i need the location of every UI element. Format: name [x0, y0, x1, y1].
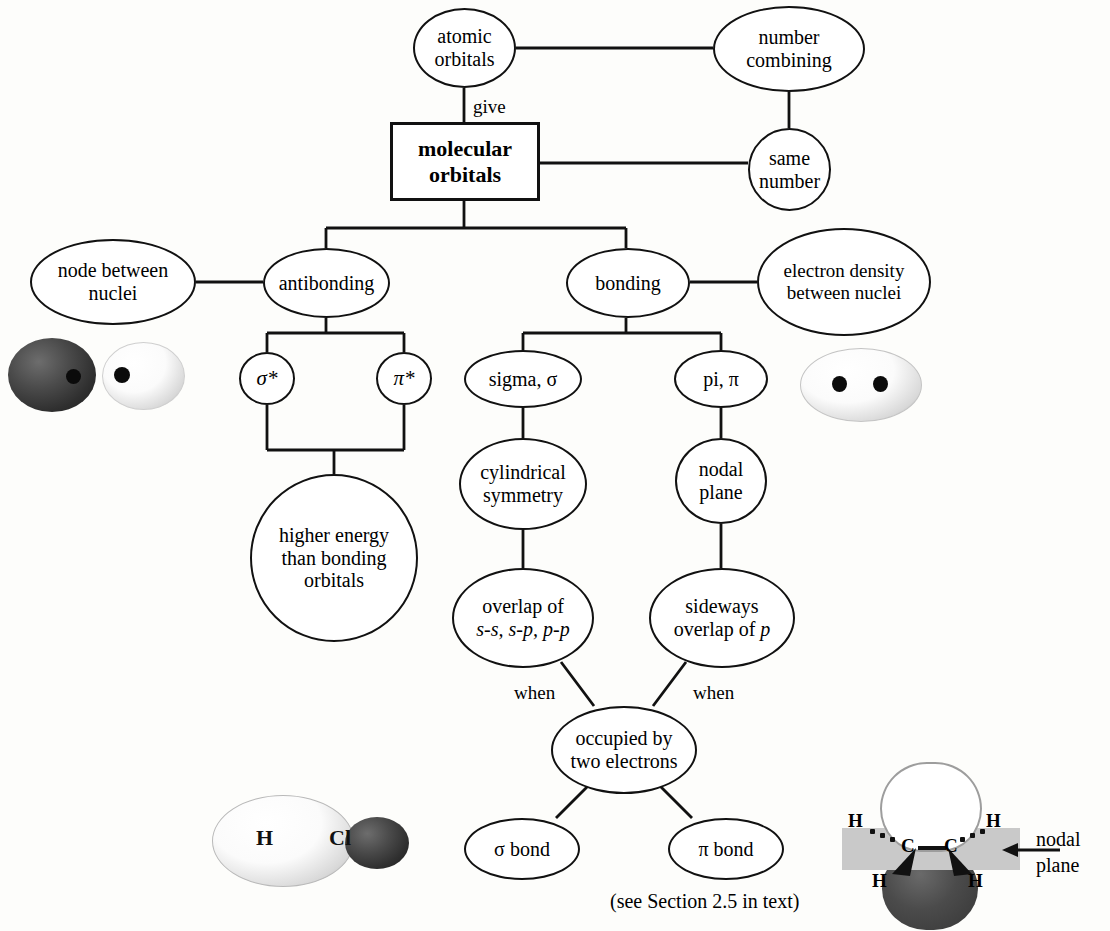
node-pi-bond[interactable]: π bond — [668, 818, 784, 880]
node-sigma-bond[interactable]: σ bond — [464, 818, 580, 880]
node-same-number[interactable]: same number — [748, 128, 831, 211]
nucleus-dot-right — [114, 367, 130, 383]
bonding-orbital-illustration — [800, 348, 920, 420]
node-number-combining[interactable]: number combining — [713, 6, 865, 92]
node-bonding[interactable]: bonding — [566, 248, 690, 318]
node-molecular-orbitals-label: molecular orbitals — [414, 136, 516, 186]
node-pi-star-label: π* — [389, 367, 418, 391]
edge-label-when-left: when — [512, 682, 557, 704]
footnote-section-reference: (see Section 2.5 in text) — [610, 890, 799, 913]
node-same-number-label: same number — [755, 147, 824, 193]
nodal-plane-annotation: nodal plane — [1036, 826, 1080, 878]
node-electron-density[interactable]: electron density between nuclei — [757, 228, 931, 336]
node-atomic-orbitals-label: atomic orbitals — [431, 25, 499, 71]
merged-lobe — [800, 348, 922, 422]
node-electron-density-label: electron density between nuclei — [780, 260, 909, 303]
nucleus-dot-left — [66, 369, 81, 384]
node-atomic-orbitals[interactable]: atomic orbitals — [413, 8, 516, 88]
node-pi[interactable]: pi, π — [674, 350, 768, 408]
node-sigma-star[interactable]: σ* — [239, 352, 295, 405]
node-pi-bond-label: π bond — [694, 838, 757, 861]
node-antibonding-label: antibonding — [275, 272, 379, 295]
carbon-atom-label-right: C — [944, 835, 958, 857]
node-higher-energy[interactable]: higher energy than bonding orbitals — [250, 474, 418, 642]
node-nodal-plane[interactable]: nodal plane — [675, 438, 767, 524]
node-node-between-nuclei-label: node between nuclei — [54, 259, 173, 305]
nodal-plane-annotation-line-1: nodal — [1036, 828, 1080, 850]
node-overlap-of-label: overlap of s-s, s-p, p-p — [472, 595, 573, 641]
ethylene-pi-bond-illustration: C C H H H H — [830, 762, 1030, 930]
carbon-atom-label-left: C — [901, 835, 915, 857]
hydrogen-atom-label-lower-right: H — [968, 870, 983, 892]
node-sigma-label: sigma, σ — [485, 368, 562, 391]
nodal-plane-annotation-line-2: plane — [1036, 854, 1079, 876]
node-cylindrical-symmetry-label: cylindrical symmetry — [476, 461, 570, 507]
chlorine-atom-label: Cl — [329, 825, 351, 851]
node-node-between-nuclei[interactable]: node between nuclei — [30, 239, 196, 325]
node-occupied-by-two-electrons[interactable]: occupied by two electrons — [551, 706, 697, 794]
chlorine-lobe — [345, 817, 409, 869]
node-sideways-overlap[interactable]: sideways overlap of p — [649, 568, 795, 668]
hydrogen-atom-label-upper-right: H — [986, 810, 1001, 832]
node-pi-star[interactable]: π* — [376, 352, 432, 405]
antibonding-orbital-illustration — [8, 336, 183, 414]
node-nodal-plane-label: nodal plane — [695, 458, 747, 504]
node-pi-label: pi, π — [699, 368, 743, 391]
node-occupied-label: occupied by two electrons — [566, 727, 681, 773]
hydrogen-atom-label: H — [256, 825, 273, 851]
node-molecular-orbitals[interactable]: molecular orbitals — [390, 122, 540, 201]
node-antibonding[interactable]: antibonding — [263, 248, 390, 318]
node-sigma[interactable]: sigma, σ — [464, 350, 582, 408]
node-sigma-star-label: σ* — [253, 367, 282, 391]
sideways-line-1: sideways — [685, 595, 758, 617]
dark-lobe — [8, 338, 96, 412]
overlap-line-1: overlap of — [482, 595, 564, 617]
nucleus-dot-right — [873, 376, 888, 392]
node-higher-energy-label: higher energy than bonding orbitals — [275, 524, 393, 592]
hcl-sigma-orbital-illustration: H Cl — [212, 795, 417, 887]
sideways-line-2b: p — [760, 618, 770, 640]
node-number-combining-label: number combining — [742, 26, 836, 72]
concept-map-canvas: atomic orbitals number combining molecul… — [0, 0, 1110, 931]
hydrogen-atom-label-lower-left: H — [872, 870, 887, 892]
nucleus-dot-left — [832, 376, 847, 392]
edge-label-give: give — [471, 96, 508, 118]
overlap-line-2: s-s, s-p, p-p — [476, 618, 569, 640]
node-overlap-of[interactable]: overlap of s-s, s-p, p-p — [452, 568, 594, 668]
node-bonding-label: bonding — [591, 272, 665, 295]
node-sideways-overlap-label: sideways overlap of p — [670, 595, 775, 641]
edge-label-when-right: when — [691, 682, 736, 704]
hydrogen-atom-label-upper-left: H — [848, 810, 863, 832]
node-sigma-bond-label: σ bond — [490, 838, 554, 861]
sideways-line-2a: overlap of — [674, 618, 761, 640]
node-cylindrical-symmetry[interactable]: cylindrical symmetry — [459, 438, 587, 530]
